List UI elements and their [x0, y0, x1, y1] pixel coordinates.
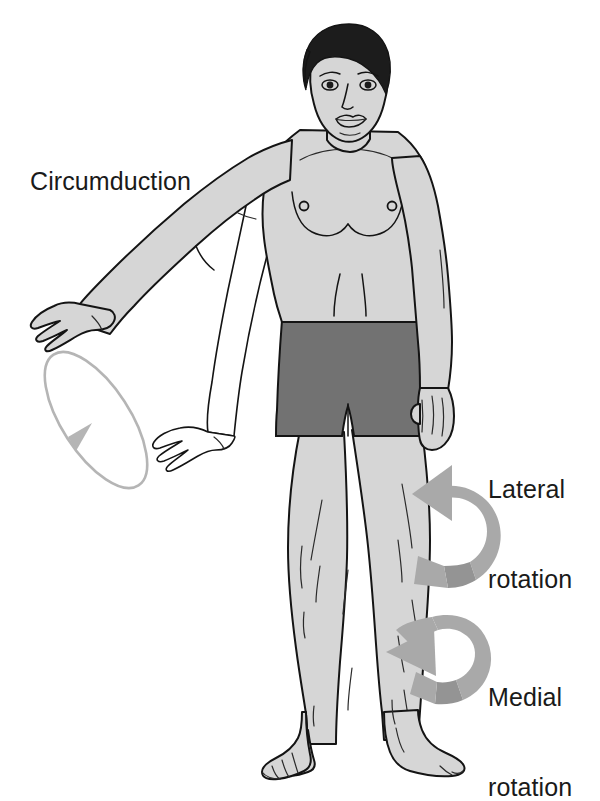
- right-foot: [384, 700, 465, 776]
- anatomy-figure-container: .sk { fill: #d6d6d6; stroke: #141414; st…: [0, 0, 600, 801]
- shorts: [276, 320, 430, 436]
- thumb-right: [411, 404, 420, 424]
- label-lateral-rotation: Lateral rotation: [488, 414, 572, 654]
- label-medial-rotation: Medial rotation: [488, 622, 572, 801]
- label-circumduction: Circumduction: [30, 166, 191, 196]
- circumduction-ellipse-group: [25, 336, 167, 504]
- label-lateral-rotation-line1: Lateral: [488, 474, 572, 504]
- label-medial-rotation-line2: rotation: [488, 772, 572, 801]
- label-lateral-rotation-line2: rotation: [488, 564, 572, 594]
- left-foot: [262, 706, 315, 779]
- label-medial-rotation-line1: Medial: [488, 682, 572, 712]
- left-leg: [288, 430, 352, 744]
